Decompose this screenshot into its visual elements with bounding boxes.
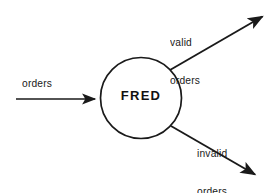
flow-label-valid-orders-line1: valid	[170, 36, 200, 49]
flow-label-valid-orders: valid orders	[170, 11, 200, 111]
data-flow-diagram: FRED orders valid orders invalid orders	[0, 0, 276, 193]
flow-label-valid-orders-line2: orders	[170, 74, 200, 87]
flow-label-invalid-orders-line1: invalid	[197, 147, 227, 160]
flow-label-invalid-orders: invalid orders	[197, 122, 227, 193]
flow-label-invalid-orders-line2: orders	[197, 185, 227, 194]
process-label-fred: FRED	[101, 89, 181, 103]
flow-label-orders: orders	[22, 77, 52, 90]
